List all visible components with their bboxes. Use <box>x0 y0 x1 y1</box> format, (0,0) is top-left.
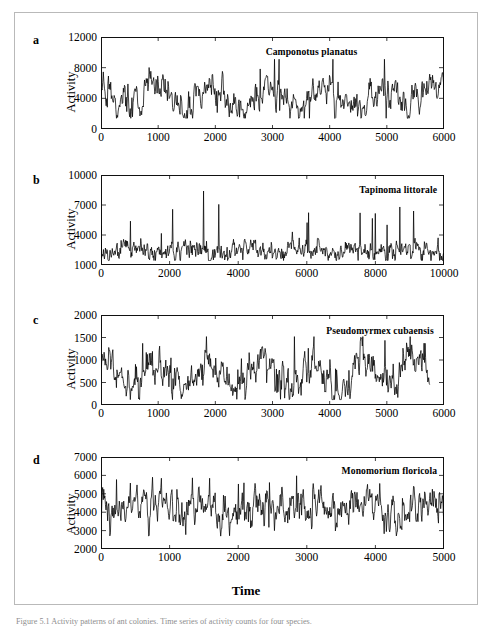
plot-area-c: Pseudomyrmex cubaensis 05001000150020000… <box>101 315 444 405</box>
x-tick-label: 1000 <box>147 131 170 143</box>
species-label-b: Tapinoma littorale <box>359 184 437 195</box>
x-tick-label: 2000 <box>227 551 250 563</box>
x-tick-label: 0 <box>98 407 104 419</box>
plot-area-a: Camponotus planatus 04000800012000010002… <box>101 37 444 129</box>
y-tick-label: 500 <box>80 377 97 389</box>
panel-letter-c: c <box>33 313 38 328</box>
species-label-d: Monomorium floricola <box>342 465 438 476</box>
y-tick-label: 12000 <box>68 31 97 43</box>
y-tick-label: 4000 <box>74 506 97 518</box>
y-tick-label: 1000 <box>74 354 97 366</box>
x-tick-label: 6000 <box>433 131 456 143</box>
x-tick-label: 4000 <box>364 551 387 563</box>
x-tick-label: 5000 <box>433 551 456 563</box>
x-tick-label: 4000 <box>318 407 341 419</box>
y-tick-label: 0 <box>91 123 97 135</box>
y-tick-label: 3000 <box>74 525 97 537</box>
x-tick-label: 10000 <box>430 267 459 279</box>
y-tick-label: 8000 <box>74 62 97 74</box>
figure-caption: Figure 5.1 Activity patterns of ant colo… <box>16 616 478 628</box>
panel-letter-d: d <box>33 453 40 468</box>
x-tick-label: 3000 <box>261 131 284 143</box>
x-tick-label: 5000 <box>375 407 398 419</box>
y-tick-label: 4000 <box>74 92 97 104</box>
y-tick-label: 7000 <box>74 199 97 211</box>
y-tick-label: 1000 <box>74 259 97 271</box>
y-tick-label: 10000 <box>68 169 97 181</box>
y-tick-label: 2000 <box>74 309 97 321</box>
y-tick-label: 7000 <box>74 451 97 463</box>
panel-letter-a: a <box>33 33 39 48</box>
figure-frame: a Activity Camponotus planatus 040008000… <box>14 12 478 605</box>
x-axis-label: Time <box>15 583 477 599</box>
x-tick-label: 6000 <box>433 407 456 419</box>
x-tick-label: 3000 <box>261 407 284 419</box>
y-tick-label: 1500 <box>74 332 97 344</box>
panel-c: c Activity Pseudomyrmex cubaensis 050010… <box>15 299 479 439</box>
x-tick-label: 2000 <box>204 407 227 419</box>
x-tick-label: 6000 <box>295 267 318 279</box>
x-tick-label: 3000 <box>295 551 318 563</box>
x-tick-label: 2000 <box>204 131 227 143</box>
species-label-c: Pseudomyrmex cubaensis <box>326 325 433 336</box>
x-tick-label: 0 <box>98 267 104 279</box>
x-tick-label: 4000 <box>227 267 250 279</box>
x-tick-label: 1000 <box>147 407 170 419</box>
x-tick-label: 2000 <box>158 267 181 279</box>
panel-d: d Activity Monomorium floricola 20003000… <box>15 439 479 589</box>
panel-letter-b: b <box>33 173 40 188</box>
plot-area-b: Tapinoma littorale 100040007000100000200… <box>101 175 444 265</box>
y-tick-label: 5000 <box>74 488 97 500</box>
panel-a: a Activity Camponotus planatus 040008000… <box>15 19 479 164</box>
y-tick-label: 0 <box>91 399 97 411</box>
plot-area-d: Monomorium floricola 2000300040005000600… <box>101 457 444 549</box>
x-tick-label: 1000 <box>158 551 181 563</box>
x-tick-label: 4000 <box>318 131 341 143</box>
species-label-a: Camponotus planatus <box>266 46 358 57</box>
y-tick-label: 4000 <box>74 229 97 241</box>
panel-b: b Activity Tapinoma littorale 1000400070… <box>15 159 479 299</box>
x-tick-label: 0 <box>98 131 104 143</box>
y-tick-label: 6000 <box>74 469 97 481</box>
x-tick-label: 8000 <box>364 267 387 279</box>
x-tick-label: 5000 <box>375 131 398 143</box>
x-tick-label: 0 <box>98 551 104 563</box>
y-tick-label: 2000 <box>74 543 97 555</box>
